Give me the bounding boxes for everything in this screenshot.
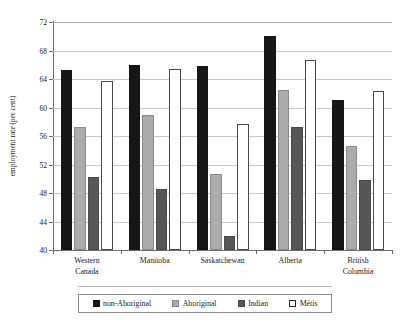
- bar: [210, 174, 222, 250]
- y-tick-label: 64: [39, 75, 47, 84]
- bar-chart: employment rate (per cent) 4044485256606…: [0, 0, 408, 324]
- bar: [156, 189, 168, 250]
- y-tick-mark: [49, 22, 53, 23]
- legend-label: Aboriginal: [183, 299, 217, 308]
- bar: [291, 127, 303, 250]
- legend-item: Métis: [289, 299, 317, 308]
- legend-label: Indian: [248, 299, 268, 308]
- y-tick-mark: [49, 165, 53, 166]
- y-tick-mark: [49, 51, 53, 52]
- y-axis-title: employment rate (per cent): [6, 22, 20, 250]
- legend-label: non-Aboriginal: [103, 299, 151, 308]
- y-tick-label: 52: [39, 160, 47, 169]
- y-tick-label: 56: [39, 132, 47, 141]
- bar: [224, 236, 236, 250]
- bar: [129, 65, 141, 250]
- plot-area: 404448525660646872 WesternCanadaManitoba…: [53, 22, 392, 250]
- legend-swatch: [238, 300, 245, 307]
- bar: [88, 177, 100, 250]
- bar: [142, 115, 154, 250]
- bar: [237, 124, 249, 250]
- x-tick-mark: [324, 250, 325, 254]
- category-label-line: Columbia: [315, 267, 401, 278]
- bar: [278, 90, 290, 250]
- legend-top-rule: [78, 286, 332, 287]
- x-axis-line: [53, 250, 393, 251]
- y-tick-label: 68: [39, 46, 47, 55]
- gridline: [53, 22, 392, 23]
- y-tick-mark: [49, 222, 53, 223]
- legend-item: non-Aboriginal: [93, 299, 152, 308]
- y-tick-label: 48: [39, 189, 47, 198]
- legend-swatch: [172, 300, 179, 307]
- bar: [169, 69, 181, 250]
- x-tick-mark: [189, 250, 190, 254]
- bar: [61, 70, 73, 250]
- legend: non-AboriginalAboriginalIndianMétis: [78, 294, 332, 313]
- y-tick-label: 60: [39, 103, 47, 112]
- x-tick-mark: [53, 250, 54, 254]
- bar: [346, 146, 358, 250]
- y-tick-mark: [49, 108, 53, 109]
- gridline: [53, 51, 392, 52]
- bar: [373, 91, 385, 250]
- legend-label: Métis: [300, 299, 318, 308]
- gridline: [53, 79, 392, 80]
- legend-swatch: [93, 300, 100, 307]
- y-tick-mark: [49, 136, 53, 137]
- y-tick-mark: [49, 193, 53, 194]
- x-tick-mark: [256, 250, 257, 254]
- y-tick-mark: [49, 79, 53, 80]
- category-label: BritishColumbia: [315, 256, 401, 277]
- bar: [74, 127, 86, 250]
- bar: [264, 36, 276, 250]
- x-tick-mark: [392, 250, 393, 254]
- bar: [101, 81, 113, 250]
- bar: [197, 66, 209, 250]
- legend-item: Indian: [238, 299, 268, 308]
- y-tick-label: 44: [39, 217, 47, 226]
- category-label-line: British: [315, 256, 401, 267]
- category-label-line: Canada: [44, 267, 130, 278]
- y-tick-label: 72: [39, 18, 47, 27]
- bar: [332, 100, 344, 250]
- legend-item: Aboriginal: [172, 299, 216, 308]
- bar: [305, 60, 317, 250]
- legend-swatch: [289, 300, 296, 307]
- x-tick-mark: [121, 250, 122, 254]
- bar: [359, 180, 371, 250]
- y-tick-label: 40: [39, 246, 47, 255]
